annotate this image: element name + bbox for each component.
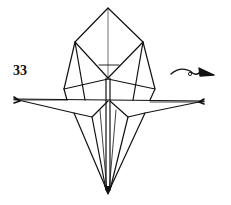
origami-figure xyxy=(0,0,231,205)
origami-diagram: 33 xyxy=(0,0,231,205)
right-wing-lower xyxy=(110,101,204,117)
arrow-loop xyxy=(188,72,191,75)
turn-over-arrow-icon xyxy=(171,68,214,76)
head-left-base xyxy=(64,89,67,100)
body-right-inner xyxy=(110,117,128,190)
step-number: 33 xyxy=(13,63,27,79)
right-cross-line xyxy=(108,79,155,89)
body-left-outer xyxy=(74,113,108,193)
left-wing-lower xyxy=(14,99,108,117)
bottom-tip xyxy=(105,186,111,194)
arrow-head xyxy=(199,68,214,76)
left-cross-line xyxy=(64,79,108,89)
